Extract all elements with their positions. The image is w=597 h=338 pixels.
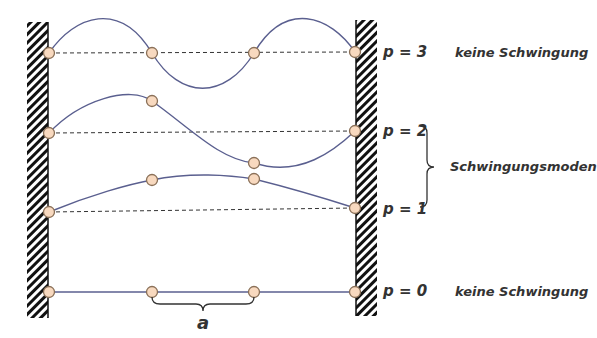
baseline-p1 [49,208,355,212]
atom [249,158,260,169]
mode-description-p3: keine Schwingung [455,46,588,59]
baseline-p2 [49,131,355,133]
atom [249,48,260,59]
spacing-brace [152,297,254,311]
atom [147,175,158,186]
atom [350,203,361,214]
curve-p3 [49,19,355,89]
mode-description-p0: keine Schwingung [455,285,588,298]
atom [350,126,361,137]
mode-label-p2: p = 2 [383,124,427,139]
right-wall [356,20,377,316]
atom [147,48,158,59]
mode-label-p1: p = 1 [383,202,427,217]
atom [44,287,55,298]
atom [44,128,55,139]
group-label: Schwingungsmoden [450,160,597,173]
atom [249,174,260,185]
spacing-label: a [197,314,209,332]
equilibrium-lines [49,52,355,212]
atom [249,287,260,298]
curve-p1 [49,175,355,212]
mode-label-p0: p = 0 [383,284,427,299]
vibration-curves [49,19,355,292]
mode-label-p3: p = 3 [383,45,427,60]
atom [350,287,361,298]
baseline-p3 [49,52,355,53]
atom [44,207,55,218]
atom [350,47,361,58]
left-wall [27,22,48,318]
atom [44,48,55,59]
atoms [44,47,361,298]
atom [147,287,158,298]
atom [147,96,158,107]
